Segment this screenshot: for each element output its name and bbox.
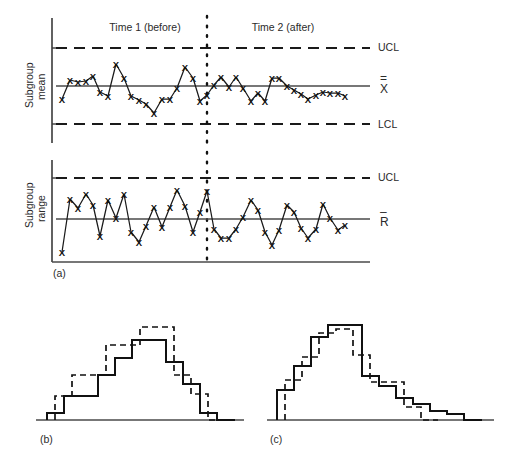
svg-text:X: X xyxy=(105,91,112,102)
svg-text:X: X xyxy=(190,227,197,238)
panel-c-hist-solid xyxy=(277,325,482,420)
phase-label-time1: Time 1 (before) xyxy=(109,21,180,33)
phase-label-time2: Time 2 (after) xyxy=(252,21,315,33)
svg-text:X: X xyxy=(151,108,158,119)
svg-text:X: X xyxy=(182,201,189,212)
svg-text:X: X xyxy=(262,227,269,238)
svg-text:X: X xyxy=(218,233,225,244)
histogram-panel-c: (c) xyxy=(267,325,494,445)
svg-text:X: X xyxy=(97,231,104,242)
svg-text:X: X xyxy=(335,225,342,236)
svg-text:X: X xyxy=(305,94,312,105)
range-chart-data-points: X X X X X X X X X X X X X X X X X X X X … xyxy=(59,185,349,258)
subgroup-range-chart: X X X X X X X X X X X X X X X X X X X X … xyxy=(23,160,399,262)
mean-chart-data-points: X X X X X X X X X X X X X X X X X X X X … xyxy=(59,59,349,119)
svg-text:X: X xyxy=(305,233,312,244)
svg-text:X: X xyxy=(143,99,150,110)
svg-text:X: X xyxy=(174,185,181,196)
mean-chart-ucl-label: UCL xyxy=(378,41,399,53)
svg-text:X: X xyxy=(248,195,255,206)
svg-text:X: X xyxy=(313,90,320,101)
svg-text:X: X xyxy=(67,194,74,205)
panel-b-hist-solid xyxy=(47,340,235,420)
svg-text:X: X xyxy=(233,224,240,235)
mean-chart-y-label-line1: Subgroup xyxy=(23,62,35,108)
svg-text:X: X xyxy=(190,73,197,84)
svg-text:X: X xyxy=(197,96,204,107)
svg-text:X: X xyxy=(313,224,320,235)
panel-caption-c: (c) xyxy=(270,433,282,445)
svg-text:X: X xyxy=(75,77,82,88)
svg-text:X: X xyxy=(298,89,305,100)
svg-text:X: X xyxy=(276,225,283,236)
svg-text:X: X xyxy=(226,233,233,244)
svg-text:X: X xyxy=(269,73,276,84)
svg-text:X: X xyxy=(197,207,204,218)
svg-text:X: X xyxy=(248,96,255,107)
svg-text:X: X xyxy=(342,220,349,231)
svg-text:X: X xyxy=(121,73,128,84)
svg-text:X: X xyxy=(113,213,120,224)
svg-text:X: X xyxy=(159,94,166,105)
svg-text:X: X xyxy=(284,81,291,92)
svg-text:X: X xyxy=(151,202,158,213)
svg-text:X: X xyxy=(113,59,120,70)
svg-text:X: X xyxy=(240,83,247,94)
figure-canvas: X X X X X X X X X X X X X X X X X X X X … xyxy=(0,0,514,461)
svg-text:X: X xyxy=(90,71,97,82)
svg-text:X: X xyxy=(262,96,269,107)
svg-text:X: X xyxy=(174,83,181,94)
svg-text:X: X xyxy=(327,88,334,99)
histogram-panel-b: (b) xyxy=(36,327,244,445)
svg-text:X: X xyxy=(167,94,174,105)
range-chart-y-label-line2: range xyxy=(35,195,47,222)
svg-text:X: X xyxy=(159,222,166,233)
mean-chart-center-label: X xyxy=(380,82,388,96)
svg-text:X: X xyxy=(298,223,305,234)
svg-text:X: X xyxy=(75,203,82,214)
svg-text:X: X xyxy=(342,91,349,102)
svg-text:X: X xyxy=(90,200,97,211)
svg-text:X: X xyxy=(320,199,327,210)
mean-chart-y-label-line2: mean xyxy=(35,74,47,100)
svg-text:X: X xyxy=(240,212,247,223)
subgroup-mean-chart: X X X X X X X X X X X X X X X X X X X X … xyxy=(23,18,399,143)
svg-text:X: X xyxy=(128,227,135,238)
svg-text:X: X xyxy=(204,186,211,197)
control-chart-figure: X X X X X X X X X X X X X X X X X X X X … xyxy=(0,0,514,461)
range-chart-ucl-label: UCL xyxy=(378,171,399,183)
svg-text:X: X xyxy=(320,87,327,98)
svg-text:X: X xyxy=(211,224,218,235)
svg-text:X: X xyxy=(269,240,276,251)
svg-text:X: X xyxy=(67,75,74,86)
svg-text:X: X xyxy=(255,205,262,216)
panel-caption-a: (a) xyxy=(53,267,66,279)
svg-text:X: X xyxy=(226,82,233,93)
svg-text:X: X xyxy=(255,88,262,99)
panel-caption-b: (b) xyxy=(40,433,53,445)
svg-text:X: X xyxy=(335,88,342,99)
svg-text:X: X xyxy=(291,85,298,96)
svg-text:X: X xyxy=(59,94,66,105)
mean-chart-lcl-label: LCL xyxy=(378,118,397,130)
svg-text:X: X xyxy=(211,80,218,91)
svg-text:X: X xyxy=(327,213,334,224)
svg-text:X: X xyxy=(121,189,128,200)
svg-text:X: X xyxy=(182,62,189,73)
svg-text:X: X xyxy=(136,237,143,248)
svg-text:X: X xyxy=(105,195,112,206)
svg-text:X: X xyxy=(83,76,90,87)
svg-text:X: X xyxy=(276,73,283,84)
svg-text:X: X xyxy=(233,72,240,83)
svg-text:X: X xyxy=(59,247,66,258)
svg-text:X: X xyxy=(128,91,135,102)
svg-text:X: X xyxy=(218,72,225,83)
svg-text:X: X xyxy=(291,207,298,218)
svg-text:X: X xyxy=(284,200,291,211)
svg-text:X: X xyxy=(167,202,174,213)
svg-text:X: X xyxy=(136,95,143,106)
range-chart-y-label-line1: Subgroup xyxy=(23,182,35,228)
svg-text:X: X xyxy=(143,221,150,232)
svg-text:X: X xyxy=(83,189,90,200)
svg-text:X: X xyxy=(97,87,104,98)
